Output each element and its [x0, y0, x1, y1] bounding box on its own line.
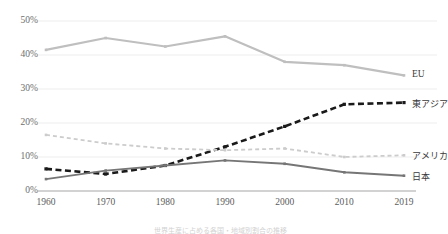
series-lines [44, 35, 405, 180]
x-tick-label: 1970 [86, 197, 126, 207]
data-point-marker [224, 35, 227, 38]
data-point-marker [343, 156, 346, 159]
x-tick-label: 1960 [26, 197, 66, 207]
data-point-marker [343, 103, 346, 106]
y-tick-label: 30% [4, 83, 38, 93]
x-tick-label: 1980 [145, 197, 185, 207]
data-point-marker [283, 163, 286, 166]
x-tick-label: 2010 [324, 197, 364, 207]
data-point-marker [104, 169, 107, 172]
x-tick-label: 2000 [265, 197, 305, 207]
data-point-marker [45, 49, 48, 52]
series-label-3: 日本 [412, 170, 430, 183]
x-tick-label: 2019 [384, 197, 424, 207]
data-point-marker [45, 134, 48, 137]
data-point-marker [402, 101, 405, 104]
data-point-marker [343, 171, 346, 174]
data-point-marker [164, 147, 167, 150]
series-line-0 [46, 36, 404, 75]
data-point-marker [403, 174, 406, 177]
data-point-marker [164, 164, 167, 167]
data-point-marker [283, 147, 286, 150]
y-tick-label: 50% [4, 15, 38, 25]
data-point-marker [403, 74, 406, 77]
data-point-marker [104, 142, 107, 145]
data-point-marker [104, 37, 107, 40]
data-point-marker [283, 61, 286, 64]
data-point-marker [45, 178, 48, 181]
y-tick-label: 0% [4, 185, 38, 195]
series-label-1: 東アジア [412, 97, 448, 110]
data-point-marker [283, 125, 286, 128]
y-tick-label: 10% [4, 151, 38, 161]
data-point-marker [343, 64, 346, 67]
data-point-marker [104, 172, 107, 175]
data-point-marker [224, 149, 227, 152]
data-point-marker [223, 145, 226, 148]
chart-caption: 世界生産に占める各国・地域別割合の推移 [0, 227, 441, 234]
y-tick-label: 40% [4, 49, 38, 59]
data-point-marker [224, 159, 227, 162]
y-tick-label: 20% [4, 117, 38, 127]
series-label-0: EU [412, 69, 425, 79]
series-line-3 [46, 160, 404, 179]
data-point-marker [403, 154, 406, 157]
x-tick-label: 1990 [205, 197, 245, 207]
series-line-1 [46, 103, 404, 174]
data-point-marker [44, 167, 47, 170]
series-label-2: アメリカ [412, 149, 448, 162]
data-point-marker [164, 45, 167, 48]
